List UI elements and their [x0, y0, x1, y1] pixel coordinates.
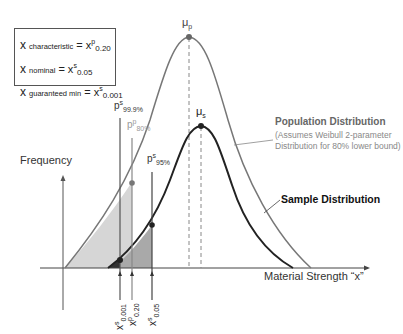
x-sup: p	[126, 317, 133, 321]
x-letter: x	[114, 325, 125, 330]
legend-sub: nominal	[29, 65, 55, 74]
xs005-label: xs0.05	[146, 304, 160, 326]
sample-mean-label: μs	[196, 105, 206, 119]
xp020-arrow-icon	[130, 271, 134, 276]
population-description: (Assumes Weibull 2-parameter Distributio…	[275, 130, 403, 152]
sample-leader	[264, 200, 280, 213]
legend-guaranteed-min: x guaranteed min = xs0.001	[20, 80, 110, 104]
ps999-label: ps99.9%	[114, 99, 143, 113]
legend-isub: 0.20	[95, 44, 111, 53]
sample-title: Sample Distribution	[281, 193, 380, 205]
population-leader	[234, 140, 273, 145]
ps999-dot	[117, 257, 123, 263]
legend-nominal: x nominal = xs0.05	[20, 57, 110, 81]
legend-eq: = x	[81, 86, 99, 98]
p-sup: p	[133, 118, 137, 125]
xs005-arrow-icon	[150, 271, 154, 276]
pp80-dot	[129, 180, 135, 186]
xp020-label: xp0.20	[126, 303, 140, 326]
pp80-label: pp80%	[127, 118, 150, 132]
legend-sub: characteristic	[29, 42, 73, 51]
legend-eq: = x	[55, 62, 73, 74]
p-sub: 95%	[156, 159, 170, 166]
x-sup: s	[146, 318, 153, 322]
ps95-dot	[149, 222, 155, 228]
x-sub: 0.05	[153, 304, 160, 318]
legend-characteristic: x characteristic = xp0.20	[20, 33, 110, 57]
y-axis-arrow-icon	[61, 175, 66, 181]
x-letter: x	[147, 321, 158, 326]
legend-x: x	[20, 38, 26, 52]
p-sub: 99.9%	[123, 106, 143, 113]
p-sup: s	[153, 152, 157, 159]
y-axis-label: Frequency	[20, 154, 72, 166]
population-mean-label: μp	[182, 16, 192, 30]
legend-eq: = x	[73, 39, 91, 51]
legend-x: x	[20, 61, 26, 75]
ps95-label: ps95%	[147, 152, 170, 166]
x-axis-arrow-icon	[364, 266, 370, 271]
population-peak-dot	[186, 34, 192, 40]
mu-sub: p	[188, 23, 192, 30]
legend-sub: guaranteed min	[29, 89, 81, 98]
xs0001-arrow-icon	[118, 271, 122, 276]
legend-isub: 0.05	[77, 67, 93, 76]
sample-peak-dot	[198, 123, 204, 129]
x-sub: 0.20	[133, 303, 140, 317]
x-sup: s	[113, 322, 120, 326]
population-title: Population Distribution	[275, 116, 386, 127]
p-sub: 80%	[136, 125, 150, 132]
x-letter: x	[127, 321, 138, 326]
x-axis-label: Material Strength “x”	[264, 270, 364, 282]
p-sup: s	[120, 99, 124, 106]
legend-box: x characteristic = xp0.20 x nominal = xs…	[14, 28, 116, 86]
legend-x: x	[20, 85, 26, 99]
mu-sub: s	[202, 112, 206, 119]
